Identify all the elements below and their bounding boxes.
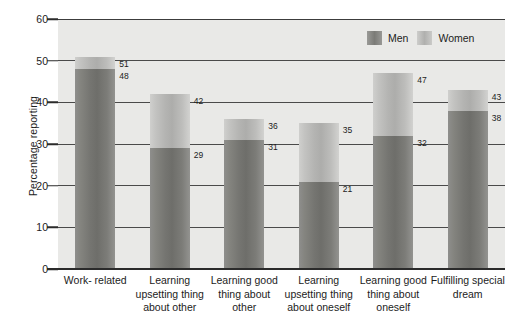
x-label-line: Learning good [207,274,282,288]
x-label-4: Learning goodthing aboutoneself [356,274,431,315]
bar-group[interactable] [299,19,339,269]
value-label-men: 32 [417,138,426,148]
plot-area: 514842293631352147324338 [58,19,505,269]
legend-entry-women[interactable]: Women [417,31,474,45]
bar-segment-men[interactable] [150,148,190,269]
value-label-women: 43 [492,92,501,102]
x-label-line: upsetting thing [282,288,357,302]
x-label-3: Learningupsetting thingabout oneself [282,274,357,315]
x-label-line: Learning good [356,274,431,288]
y-tick-mark-60 [47,18,58,20]
gridline-20 [58,185,505,186]
bar-group[interactable] [448,19,488,269]
x-label-line: other [207,301,282,315]
women-swatch-icon [417,31,432,45]
y-tick-mark-50 [47,60,58,62]
y-tick-mark-10 [47,227,58,229]
y-tick-mark-20 [47,185,58,187]
y-axis-tick-marks [11,19,58,269]
value-label-men: 48 [119,71,128,81]
value-label-men: 21 [343,184,352,194]
gridline-30 [58,144,505,145]
x-label-2: Learning goodthing aboutother [207,274,282,315]
y-tick-mark-40 [47,102,58,104]
bar-segment-men[interactable] [299,182,339,270]
bar-group[interactable] [373,19,413,269]
value-label-men: 38 [492,113,501,123]
value-label-women: 35 [343,125,352,135]
bar-chart: Percentage reporting 0102030405060 51484… [0,0,522,329]
legend-label: Women [438,32,474,44]
bar-group[interactable] [75,19,115,269]
value-label-men: 29 [194,150,203,160]
x-label-line: thing about [356,288,431,302]
legend-entry-men[interactable]: Men [367,31,408,45]
value-label-women: 42 [194,96,203,106]
gridline-40 [58,102,505,103]
x-axis-category-labels: Work- relatedLearningupsetting thingabou… [58,274,505,329]
value-label-women: 51 [119,59,128,69]
x-label-line: oneself [356,301,431,315]
x-axis-line [47,268,505,270]
x-label-1: Learningupsetting thingabout other [133,274,208,315]
y-tick-mark-30 [47,143,58,145]
value-label-women: 47 [417,75,426,85]
x-label-5: Fulfilling specialdream [431,274,506,301]
legend: MenWomen [367,31,474,45]
value-label-men: 31 [268,142,277,152]
bar-segment-men[interactable] [224,140,264,269]
x-label-line: Learning [133,274,208,288]
x-label-line: about oneself [282,301,357,315]
gridline-10 [58,227,505,228]
x-label-line: Work- related [58,274,133,288]
bar-segment-men[interactable] [373,136,413,269]
gridline-60 [58,19,505,20]
x-label-line: Fulfilling special [431,274,506,288]
bar-segment-men[interactable] [75,69,115,269]
bar-group[interactable] [150,19,190,269]
x-label-0: Work- related [58,274,133,288]
x-label-line: Learning [282,274,357,288]
x-label-line: thing about [207,288,282,302]
x-label-line: dream [431,288,506,302]
legend-label: Men [388,32,408,44]
men-swatch-icon [367,31,382,45]
x-label-line: about other [133,301,208,315]
bar-group[interactable] [224,19,264,269]
bar-segment-men[interactable] [448,111,488,269]
x-label-line: upsetting thing [133,288,208,302]
value-label-women: 36 [268,121,277,131]
